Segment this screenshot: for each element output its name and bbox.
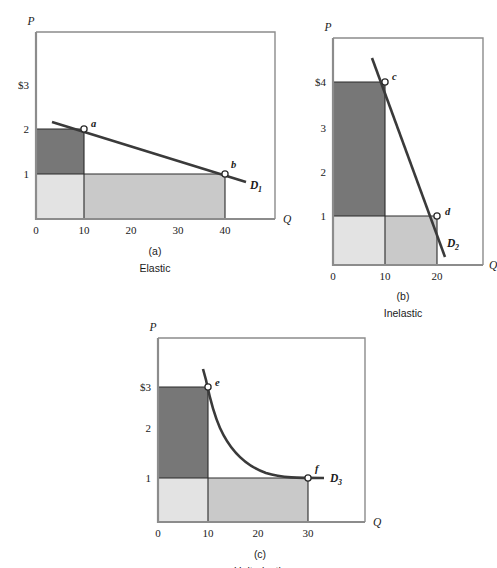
panel-a-region-price-drop-loss [36, 129, 84, 174]
panel-c-point-label-e: e [215, 377, 220, 388]
panel-a-ytick-2: 1 [24, 168, 30, 180]
panel-c-svg: P Q $3 2 1 0 10 20 30 e f D 3 (c) Unit-e… [110, 310, 410, 568]
panel-b-ytick-0: $4 [315, 76, 327, 88]
panel-b-point-d-marker [434, 213, 440, 219]
panel-c-region-quantity-gain [208, 478, 308, 522]
panel-c-caption-id: (c) [254, 548, 266, 560]
panel-a-caption-id: (a) [149, 245, 162, 257]
panel-c-unit-elastic: P Q $3 2 1 0 10 20 30 e f D 3 (c) Unit-e… [110, 310, 410, 568]
panel-b-ytick-1: 3 [321, 122, 327, 134]
panel-b-inelastic: P Q $4 3 2 1 0 10 20 c d D 2 (b) Inelast… [290, 0, 497, 320]
panel-c-xtick-0: 0 [155, 527, 161, 539]
panel-b-xtick-1: 10 [380, 270, 392, 282]
panel-a-xtick-2: 20 [126, 224, 138, 236]
panel-a-xtick-1: 10 [79, 224, 91, 236]
panel-a-curve-label-subscript: 1 [258, 185, 262, 194]
panel-c-ytick-2: 1 [146, 472, 152, 484]
panel-b-svg: P Q $4 3 2 1 0 10 20 c d D 2 (b) Inelast… [290, 0, 497, 320]
panel-a-point-label-b: b [231, 159, 236, 170]
panel-a-region-quantity-gain [84, 174, 225, 219]
panel-a-region-original-revenue-base [36, 174, 84, 219]
panel-b-point-c-marker [382, 79, 388, 85]
panel-b-region-original-revenue-base [333, 216, 385, 265]
panel-a-svg: P Q $3 2 1 0 10 20 30 40 a b D 1 (a) Ela… [0, 0, 290, 290]
panel-c-xtick-1: 10 [203, 527, 215, 539]
panel-a-point-a-marker [81, 126, 87, 132]
panel-c-point-e-marker [205, 384, 211, 390]
panel-a-xtick-3: 30 [173, 224, 185, 236]
elasticity-figure: P Q $3 2 1 0 10 20 30 40 a b D 1 (a) Ela… [0, 0, 497, 568]
panel-c-y-axis-label: P [148, 321, 156, 333]
panel-c-ytick-1: 2 [146, 422, 152, 434]
panel-c-x-axis-label: Q [373, 516, 382, 528]
panel-b-ytick-3: 1 [321, 210, 327, 222]
panel-a-point-label-a: a [91, 118, 96, 129]
panel-b-ytick-2: 2 [321, 166, 327, 178]
panel-c-region-original-revenue-base [158, 478, 208, 522]
panel-b-point-label-c: c [392, 71, 397, 82]
panel-c-demand-curve-d3 [203, 369, 324, 478]
panel-b-point-label-d: d [445, 206, 451, 217]
panel-c-curve-label-subscript: 3 [337, 478, 342, 487]
panel-b-xtick-2: 20 [432, 270, 444, 282]
panel-b-caption-id: (b) [397, 290, 410, 302]
panel-b-region-quantity-gain [385, 216, 437, 265]
panel-b-y-axis-label: P [323, 21, 331, 33]
panel-b-xtick-0: 0 [330, 270, 336, 282]
panel-a-xtick-0: 0 [33, 224, 39, 236]
panel-c-ytick-0: $3 [140, 381, 152, 393]
panel-a-xtick-4: 40 [220, 224, 232, 236]
panel-a-ytick-1: 2 [24, 123, 30, 135]
panel-c-xtick-3: 30 [303, 527, 315, 539]
panel-c-region-price-drop-loss [158, 387, 208, 478]
panel-a-y-axis-label: P [26, 15, 34, 27]
panel-b-x-axis-label: Q [489, 259, 497, 271]
panel-a-point-b-marker [222, 171, 228, 177]
panel-a-elastic: P Q $3 2 1 0 10 20 30 40 a b D 1 (a) Ela… [0, 0, 290, 290]
panel-c-point-f-marker [305, 475, 311, 481]
panel-b-region-price-drop-loss [333, 82, 385, 216]
panel-c-point-label-f: f [315, 463, 320, 474]
panel-b-curve-label-subscript: 2 [454, 243, 459, 252]
panel-c-xtick-2: 20 [253, 527, 265, 539]
panel-a-caption-name: Elastic [140, 262, 171, 274]
panel-a-ytick-0: $3 [18, 79, 30, 91]
